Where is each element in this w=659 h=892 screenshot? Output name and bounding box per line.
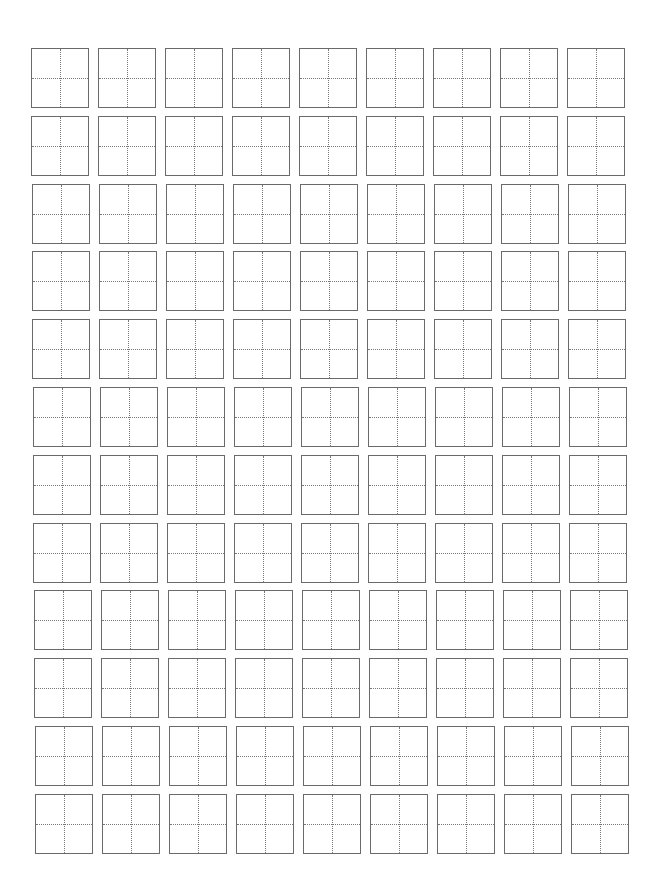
- horizontal-guide-line: [436, 417, 492, 418]
- practice-box: [32, 319, 90, 379]
- horizontal-guide-line: [369, 417, 425, 418]
- horizontal-guide-line: [370, 620, 426, 621]
- practice-box: [567, 116, 625, 176]
- practice-box: [301, 387, 359, 447]
- horizontal-guide-line: [100, 281, 156, 282]
- horizontal-guide-line: [437, 620, 493, 621]
- practice-box: [99, 251, 157, 311]
- horizontal-guide-line: [503, 417, 559, 418]
- horizontal-guide-line: [505, 756, 561, 757]
- horizontal-guide-line: [570, 417, 626, 418]
- practice-box: [301, 523, 359, 583]
- practice-box: [98, 48, 156, 108]
- horizontal-guide-line: [370, 688, 426, 689]
- horizontal-guide-line: [569, 349, 625, 350]
- horizontal-guide-line: [167, 281, 223, 282]
- practice-box: [32, 251, 90, 311]
- horizontal-guide-line: [304, 824, 360, 825]
- horizontal-guide-line: [103, 824, 159, 825]
- horizontal-guide-line: [502, 281, 558, 282]
- practice-box: [366, 116, 424, 176]
- practice-box: [500, 116, 558, 176]
- horizontal-guide-line: [236, 688, 292, 689]
- horizontal-guide-line: [168, 485, 224, 486]
- practice-box: [570, 590, 628, 650]
- horizontal-guide-line: [99, 78, 155, 79]
- practice-box: [434, 184, 492, 244]
- practice-box: [367, 319, 425, 379]
- practice-box: [31, 116, 89, 176]
- practice-box: [98, 116, 156, 176]
- horizontal-guide-line: [503, 553, 559, 554]
- practice-box: [435, 455, 493, 515]
- horizontal-guide-line: [502, 349, 558, 350]
- horizontal-guide-line: [101, 485, 157, 486]
- practice-box: [434, 251, 492, 311]
- practice-box: [166, 319, 224, 379]
- horizontal-guide-line: [570, 553, 626, 554]
- horizontal-guide-line: [369, 485, 425, 486]
- horizontal-guide-line: [438, 824, 494, 825]
- practice-box: [435, 387, 493, 447]
- practice-box: [33, 455, 91, 515]
- practice-box: [166, 184, 224, 244]
- practice-box: [236, 726, 294, 786]
- practice-box: [102, 726, 160, 786]
- horizontal-guide-line: [300, 146, 356, 147]
- practice-box: [368, 455, 426, 515]
- practice-box: [102, 794, 160, 854]
- horizontal-guide-line: [166, 78, 222, 79]
- practice-box: [99, 184, 157, 244]
- practice-box: [502, 387, 560, 447]
- horizontal-guide-line: [101, 417, 157, 418]
- practice-sheet: [0, 0, 659, 892]
- practice-box: [234, 455, 292, 515]
- practice-box: [437, 726, 495, 786]
- horizontal-guide-line: [102, 620, 158, 621]
- practice-box: [232, 48, 290, 108]
- horizontal-guide-line: [300, 78, 356, 79]
- practice-box: [367, 184, 425, 244]
- practice-box: [368, 523, 426, 583]
- practice-box: [235, 658, 293, 718]
- horizontal-guide-line: [235, 485, 291, 486]
- horizontal-guide-line: [502, 214, 558, 215]
- horizontal-guide-line: [168, 417, 224, 418]
- practice-box: [300, 319, 358, 379]
- horizontal-guide-line: [32, 146, 88, 147]
- practice-box: [503, 590, 561, 650]
- horizontal-guide-line: [301, 281, 357, 282]
- practice-box: [300, 251, 358, 311]
- practice-box: [571, 794, 629, 854]
- horizontal-guide-line: [302, 485, 358, 486]
- practice-box: [169, 726, 227, 786]
- horizontal-guide-line: [234, 214, 290, 215]
- practice-box: [165, 48, 223, 108]
- practice-box: [100, 455, 158, 515]
- practice-box: [366, 48, 424, 108]
- horizontal-guide-line: [371, 756, 427, 757]
- practice-box: [568, 251, 626, 311]
- practice-box: [369, 658, 427, 718]
- horizontal-guide-line: [301, 214, 357, 215]
- practice-box: [34, 658, 92, 718]
- practice-box: [435, 523, 493, 583]
- practice-box: [500, 48, 558, 108]
- practice-box: [232, 116, 290, 176]
- horizontal-guide-line: [167, 214, 223, 215]
- horizontal-guide-line: [568, 78, 624, 79]
- practice-box: [233, 319, 291, 379]
- practice-box: [165, 116, 223, 176]
- practice-box: [167, 523, 225, 583]
- horizontal-guide-line: [434, 78, 490, 79]
- horizontal-guide-line: [304, 756, 360, 757]
- practice-box: [168, 590, 226, 650]
- horizontal-guide-line: [33, 214, 89, 215]
- horizontal-guide-line: [572, 824, 628, 825]
- practice-box: [368, 387, 426, 447]
- practice-box: [568, 184, 626, 244]
- practice-box: [235, 590, 293, 650]
- horizontal-guide-line: [236, 620, 292, 621]
- practice-box: [433, 116, 491, 176]
- horizontal-guide-line: [570, 485, 626, 486]
